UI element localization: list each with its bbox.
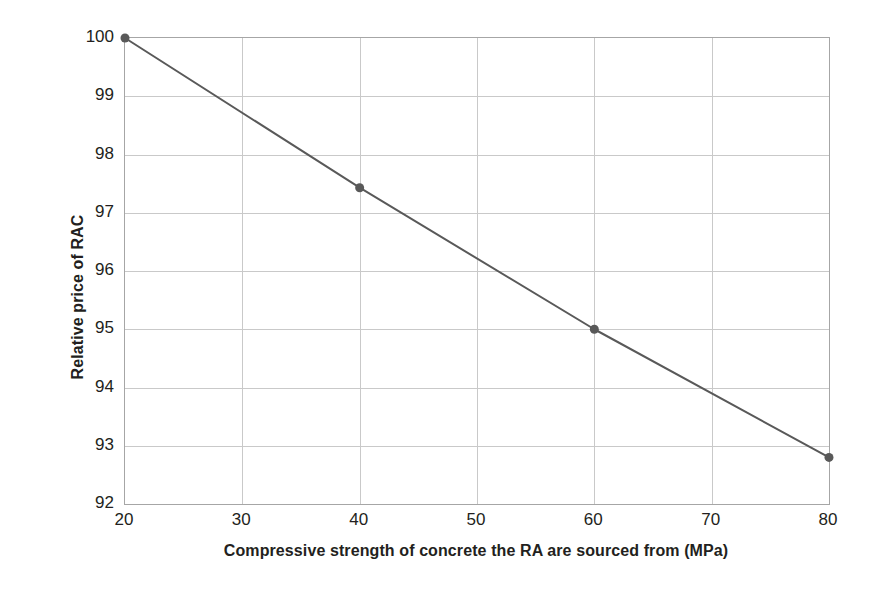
x-tick-label: 70 [671, 510, 751, 530]
series-markers [121, 34, 834, 462]
plot-area [124, 37, 830, 505]
data-point-marker [825, 453, 834, 462]
data-series-layer [125, 38, 829, 504]
data-point-marker [355, 183, 364, 192]
y-tick-label: 94 [52, 377, 114, 397]
y-tick-label: 97 [52, 202, 114, 222]
y-tick-label: 96 [52, 260, 114, 280]
x-tick-label: 80 [788, 510, 868, 530]
x-tick-label: 60 [553, 510, 633, 530]
series-line [125, 38, 829, 457]
y-tick-label: 100 [52, 27, 114, 47]
y-tick-label: 95 [52, 318, 114, 338]
x-axis-title: Compressive strength of concrete the RA … [124, 542, 828, 560]
x-tick-label: 40 [319, 510, 399, 530]
x-tick-label: 20 [84, 510, 164, 530]
x-tick-label: 30 [201, 510, 281, 530]
x-tick-label: 50 [436, 510, 516, 530]
x-axis-tick-labels: 20304050607080 [124, 510, 828, 536]
chart-figure: Relative price of RAC 929394959697989910… [0, 0, 881, 594]
data-point-marker [590, 325, 599, 334]
y-tick-label: 93 [52, 435, 114, 455]
y-axis-tick-labels: 9293949596979899100 [52, 37, 114, 503]
y-tick-label: 99 [52, 85, 114, 105]
y-tick-label: 98 [52, 144, 114, 164]
data-point-marker [121, 34, 130, 43]
